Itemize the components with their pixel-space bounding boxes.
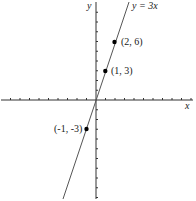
equation-label: y = 3x (131, 0, 158, 11)
y-axis-label: y (86, 0, 92, 11)
x-axis-label: x (184, 100, 190, 111)
point-2-6 (112, 40, 116, 44)
point-label-1-3: (1, 3) (111, 65, 133, 77)
point-neg1-neg3 (84, 127, 88, 131)
point-label-2-6: (2, 6) (121, 36, 143, 48)
point-label-neg1-neg3: (-1, -3) (54, 123, 82, 135)
coordinate-plane: (2, 6) (1, 3) (-1, -3) y = 3x y x (0, 0, 196, 201)
point-1-3 (103, 69, 107, 73)
